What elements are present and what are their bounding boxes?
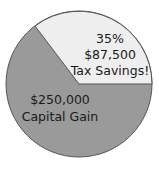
pie-chart: 35% $87,500 Tax Savings! $250,000 Capita… [0,0,159,170]
savings-percent-label: 35% [96,31,124,46]
gain-amount-label: $250,000 [30,92,90,107]
savings-text-label: Tax Savings! [70,63,149,78]
savings-amount-label: $87,500 [84,47,136,62]
gain-text-label: Capital Gain [22,109,99,124]
